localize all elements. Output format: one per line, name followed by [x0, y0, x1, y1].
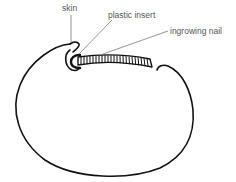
- label-plastic-insert: plastic insert: [108, 11, 155, 20]
- label-skin: skin: [62, 4, 77, 13]
- ingrowing-nail-diagram: skin plastic insert ingrowing nail: [0, 0, 236, 182]
- ingrowing-nail: [78, 55, 152, 67]
- skin-fold: [70, 42, 79, 52]
- label-ingrowing-nail: ingrowing nail: [170, 27, 222, 36]
- ingrowing-nail-leader-line: [103, 31, 168, 54]
- toe-outline: [16, 44, 193, 176]
- plastic-insert-leader-line: [79, 20, 112, 54]
